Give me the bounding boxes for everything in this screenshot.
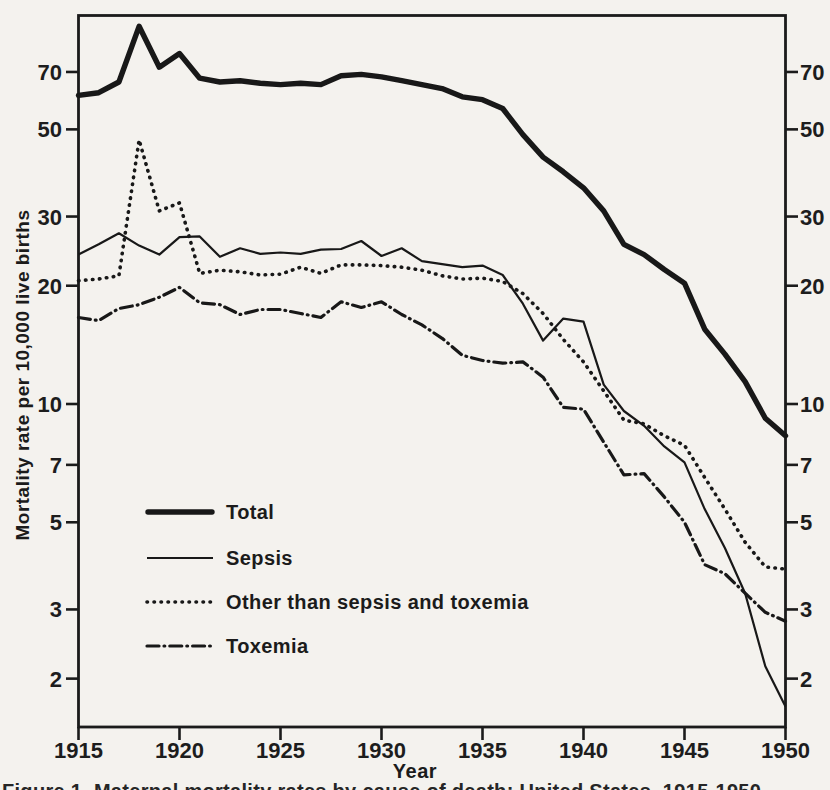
y-tick-label-left: 3 xyxy=(50,597,62,622)
x-tick-label: 1940 xyxy=(559,738,608,763)
x-tick-label: 1915 xyxy=(54,738,103,763)
y-tick-label-right: 10 xyxy=(800,392,824,417)
legend-item-other: Other than sepsis and toxemia xyxy=(145,587,529,617)
mortality-rate-chart: 2233557710102020303050507070191519201925… xyxy=(0,0,830,790)
legend-label-toxemia: Toxemia xyxy=(226,635,308,658)
y-tick-label-right: 5 xyxy=(800,510,812,535)
y-tick-label-right: 2 xyxy=(800,667,812,692)
x-tick-label: 1950 xyxy=(761,738,810,763)
x-tick-label: 1925 xyxy=(256,738,305,763)
legend-item-toxemia: Toxemia xyxy=(145,631,308,661)
legend-swatch-sepsis-line-icon xyxy=(145,552,215,564)
y-tick-label-right: 3 xyxy=(800,597,812,622)
legend-swatch-total-line-icon xyxy=(145,506,215,518)
legend-item-sepsis: Sepsis xyxy=(145,543,293,573)
y-tick-label-right: 20 xyxy=(800,274,824,299)
y-tick-label-left: 7 xyxy=(50,453,62,478)
y-tick-label-right: 7 xyxy=(800,453,812,478)
y-tick-label-left: 70 xyxy=(38,60,62,85)
legend-swatch-toxemia-dashdot-line-icon xyxy=(145,640,215,652)
legend-label-total: Total xyxy=(226,501,274,524)
legend-label-sepsis: Sepsis xyxy=(226,547,293,570)
y-tick-label-left: 10 xyxy=(38,392,62,417)
x-tick-label: 1920 xyxy=(155,738,204,763)
legend-item-total: Total xyxy=(145,497,274,527)
y-tick-label-right: 30 xyxy=(800,205,824,230)
x-tick-label: 1945 xyxy=(660,738,709,763)
figure-page: 2233557710102020303050507070191519201925… xyxy=(0,0,830,790)
y-tick-label-left: 20 xyxy=(38,274,62,299)
y-tick-label-left: 30 xyxy=(38,205,62,230)
x-tick-label: 1935 xyxy=(458,738,507,763)
plot-frame xyxy=(79,16,786,728)
y-tick-label-left: 2 xyxy=(50,667,62,692)
y-tick-label-right: 50 xyxy=(800,117,824,142)
legend-label-other: Other than sepsis and toxemia xyxy=(226,591,529,614)
y-tick-label-right: 70 xyxy=(800,60,824,85)
y-axis-title: Mortality rate per 10,000 live births xyxy=(12,209,34,540)
caption-fragment: Figure 1. Maternal mortality rates by ca… xyxy=(2,780,828,790)
y-tick-label-left: 5 xyxy=(50,510,62,535)
legend-swatch-other-dotted-line-icon xyxy=(145,596,215,608)
series-line-total xyxy=(79,26,786,436)
y-tick-label-left: 50 xyxy=(38,117,62,142)
